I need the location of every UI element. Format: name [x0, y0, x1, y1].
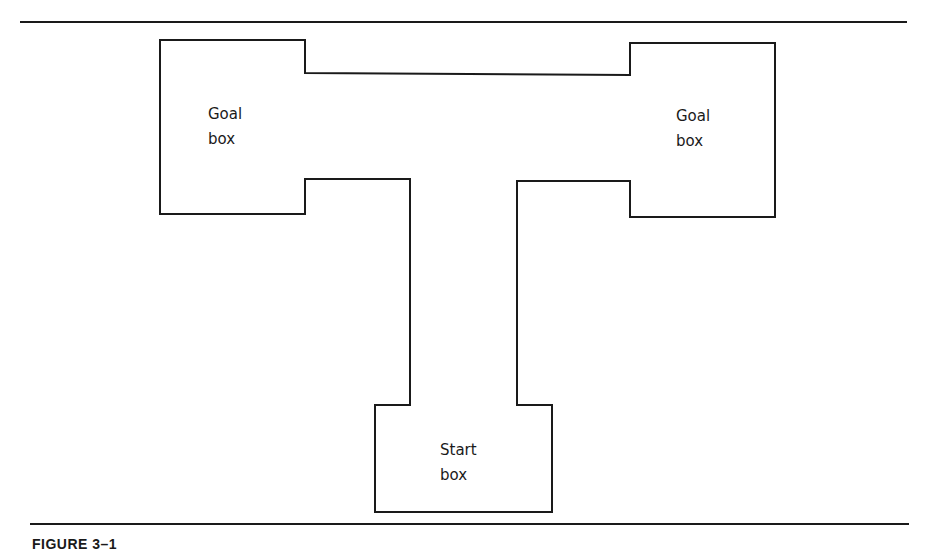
left-goal-box-label: Goal box [208, 102, 242, 152]
left-goal-line-1: Goal [208, 102, 242, 127]
right-goal-box-label: Goal box [676, 104, 710, 154]
figure-caption: FIGURE 3–1 [32, 536, 117, 552]
left-goal-line-2: box [208, 127, 242, 152]
start-box-label: Start box [440, 438, 477, 488]
right-goal-line-2: box [676, 129, 710, 154]
bottom-rule [30, 523, 909, 525]
right-goal-line-1: Goal [676, 104, 710, 129]
start-line-1: Start [440, 438, 477, 463]
start-line-2: box [440, 463, 477, 488]
